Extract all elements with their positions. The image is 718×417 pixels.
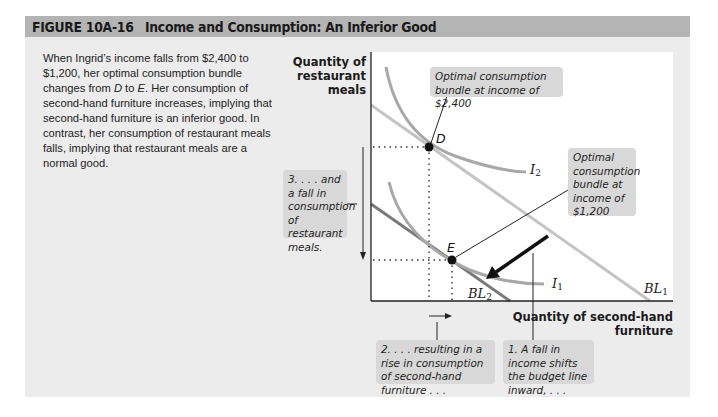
callout-step3: 3. . . . and a fall in consumption of re… (283, 170, 347, 238)
callout-step1: 1. A fall in income shifts the budget li… (503, 340, 594, 384)
y-axis-label: Quantity of restaurant meals (280, 55, 366, 97)
point-d-label: D (436, 131, 446, 146)
x-axis-label: Quantity of second-hand furniture (480, 310, 673, 338)
curve-label-bl2: BL2 (468, 286, 492, 302)
shift-arrow-line (496, 236, 548, 272)
rise-arrow-head (445, 313, 452, 319)
curve-label-bl1: BL1 (644, 281, 668, 297)
callout-optimal-1200: Optimal consumption bundle at income of … (568, 148, 636, 216)
fall-arrow-head (360, 252, 366, 260)
callout-optimal-2400: Optimal consumption bundle at income of … (430, 67, 563, 97)
curve-label-i2: I2 (530, 162, 541, 178)
point-e (448, 256, 457, 265)
callout-step2: 2. . . . resulting in a rise in consumpt… (376, 340, 495, 384)
point-e-label: E (447, 240, 455, 255)
curve-label-i1: I1 (552, 276, 563, 292)
point-d (425, 143, 434, 152)
leader-e (456, 190, 568, 257)
